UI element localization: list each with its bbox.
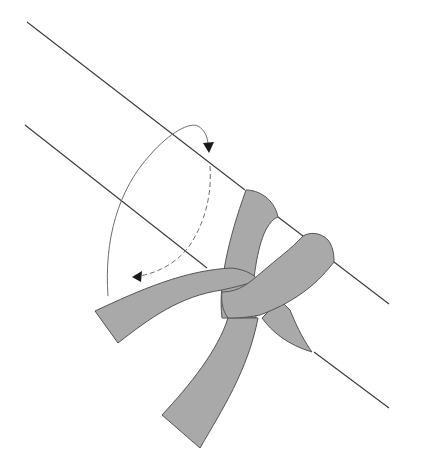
arrow-hidden-dashed-arc xyxy=(140,166,210,276)
pole xyxy=(25,22,389,408)
arrowhead-top-icon xyxy=(203,142,214,153)
pole-top-edge-end xyxy=(334,262,389,304)
knot-illustration xyxy=(0,0,426,465)
pole-top-edge-mid xyxy=(278,217,303,236)
rope-lower-tail xyxy=(162,318,258,448)
knot-diagram xyxy=(0,0,426,465)
pole-bottom-edge-end xyxy=(314,352,389,408)
pole-top-edge xyxy=(27,22,245,190)
pole-bottom-edge xyxy=(25,125,207,268)
arrowhead-left-icon xyxy=(132,271,142,282)
wrap-direction-arrow xyxy=(107,125,214,296)
rope xyxy=(95,190,334,448)
